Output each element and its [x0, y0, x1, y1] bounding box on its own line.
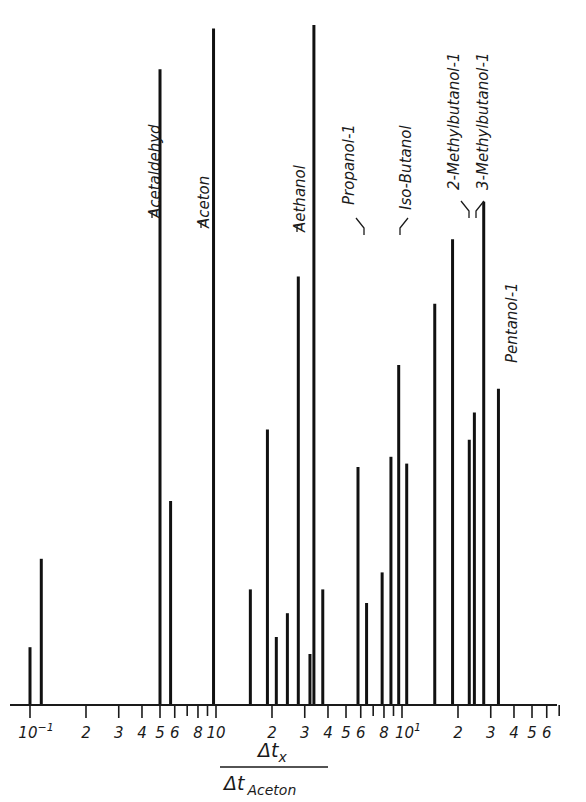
label-pentanol-1: Pentanol-1	[503, 282, 521, 363]
chromatogram-chart: 10−12345681023456810123456 AcetaldehydAc…	[0, 0, 586, 802]
x-tick-label: 5	[341, 724, 351, 742]
x-axis-label-denominator: ΔtAceton	[222, 772, 296, 798]
label-aethanol: Aethanol	[291, 164, 309, 233]
label-iso-butanol: Iso-Butanol	[397, 125, 415, 210]
x-tick-label: 6	[542, 724, 552, 742]
x-tick-label: 4	[137, 724, 147, 742]
x-tick-label: 10−1	[18, 721, 53, 742]
label-aceton: Aceton	[195, 176, 213, 229]
label-propanol-1: Propanol-1	[340, 124, 358, 205]
leader-2-methylbutanol-1	[461, 201, 469, 218]
label-2-methylbutanol-1: 2-Methylbutanol-1	[445, 53, 463, 190]
x-tick-label: 3	[114, 724, 124, 742]
leader-iso-butanol	[400, 218, 408, 235]
x-tick-label: 3	[300, 724, 310, 742]
label-3-methylbutanol-1: 3-Methylbutanol-1	[474, 53, 492, 190]
x-tick-label: 101	[395, 721, 421, 742]
x-tick-label: 2	[453, 724, 463, 742]
x-tick-label: 8	[379, 724, 389, 742]
peak-annotations: AcetaldehydAcetonAethanolPropanol-1Iso-B…	[146, 53, 521, 363]
x-tick-label: 3	[486, 724, 496, 742]
x-tick-label: 6	[356, 724, 366, 742]
x-tick-label: 4	[509, 724, 519, 742]
x-axis-ticks	[30, 705, 559, 718]
label-acetaldehyd: Acetaldehyd	[146, 124, 164, 219]
x-tick-label: 8	[193, 724, 203, 742]
x-tick-label: 4	[323, 724, 333, 742]
x-tick-label: 5	[155, 724, 165, 742]
peak-bars	[30, 25, 498, 705]
leader-propanol-1	[356, 218, 364, 235]
x-tick-label: 10	[206, 724, 225, 742]
x-tick-label: 2	[81, 724, 91, 742]
x-axis-tick-labels: 10−12345681023456810123456	[18, 721, 551, 742]
x-tick-label: 6	[170, 724, 180, 742]
x-tick-label: 5	[527, 724, 537, 742]
x-axis-label-numerator: Δtx	[256, 739, 287, 765]
x-axis-label: Δtx ΔtAceton	[220, 739, 328, 798]
